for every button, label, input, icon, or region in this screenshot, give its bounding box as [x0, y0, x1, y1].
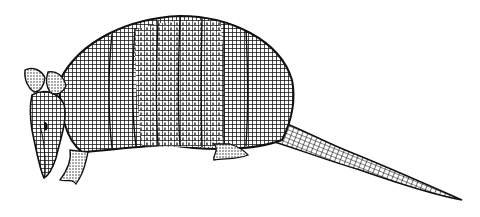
- front-leg: [60, 150, 88, 184]
- tail: [268, 118, 462, 200]
- ears: [25, 68, 66, 94]
- head: [31, 92, 66, 178]
- shell: [60, 16, 294, 152]
- armadillo-illustration: armadillo: [0, 0, 480, 217]
- armadillo-drawing: [0, 0, 480, 217]
